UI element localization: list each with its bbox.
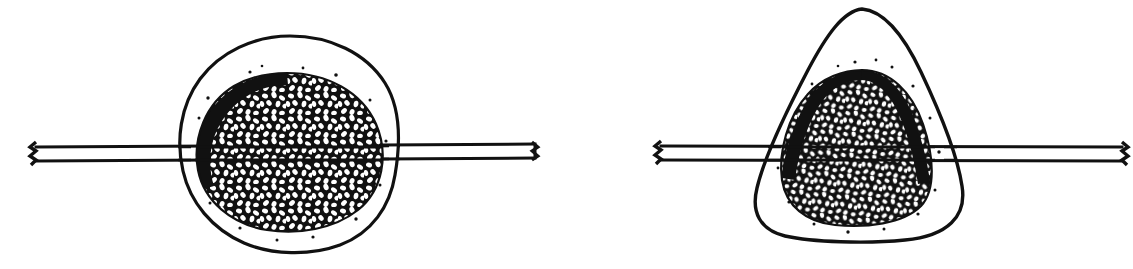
- figure-plate: Two sectional views of a specimen mounte…: [0, 0, 1133, 269]
- illustration-canvas: [0, 0, 1133, 269]
- plate-background: [0, 0, 1133, 269]
